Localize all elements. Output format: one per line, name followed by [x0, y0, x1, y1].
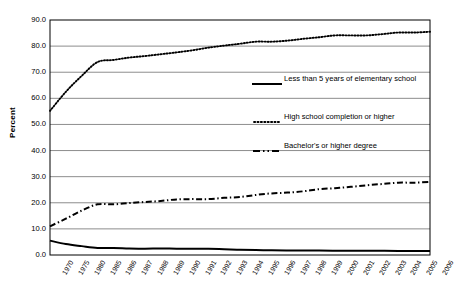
legend-item-less-than-5-years: Less than 5 years of elementary school: [252, 74, 416, 85]
x-axis-tick-label: 1996: [282, 259, 296, 276]
legend-swatch-solid-icon: [252, 75, 282, 85]
x-axis-tick-label: 1986: [124, 259, 138, 276]
legend-swatch-dashdot-icon: [252, 142, 282, 152]
x-axis-tick-label: 1993: [235, 259, 249, 276]
legend-swatch-dotted-icon: [252, 113, 282, 123]
legend-label-high-school: High school completion or higher: [284, 112, 395, 122]
x-axis-tick-label: 2004: [409, 259, 423, 276]
x-axis-tick-label: 1997: [298, 259, 312, 276]
x-axis-tick-label: 2002: [377, 259, 391, 276]
x-axis-tick-label: 1989: [172, 259, 186, 276]
x-axis-tick-label: 2001: [362, 259, 376, 276]
x-axis-tick-label: 1987: [140, 259, 154, 276]
x-axis-tick-label: 1975: [77, 259, 91, 276]
x-axis-tick-label: 1980: [92, 259, 106, 276]
legend-item-bachelors: Bachelor's or higher degree: [252, 141, 377, 152]
x-axis-tick-label: 1991: [203, 259, 217, 276]
legend-item-high-school: High school completion or higher: [252, 112, 395, 123]
x-axis-tick-label: 1995: [267, 259, 281, 276]
x-axis-tick-label: 1999: [330, 259, 344, 276]
x-axis-tick-label: 1994: [251, 259, 265, 276]
x-axis-tick-label: 1970: [61, 259, 75, 276]
x-axis-tick-label: 2006: [441, 259, 455, 276]
x-axis-tick-label: 1992: [219, 259, 233, 276]
x-axis-tick-label: 2000: [346, 259, 360, 276]
x-axis-tick-label: 2005: [425, 259, 439, 276]
x-axis-tick-label: 1988: [156, 259, 170, 276]
x-axis-tick-label: 2003: [393, 259, 407, 276]
legend-label-less-than-5-years: Less than 5 years of elementary school: [284, 74, 416, 84]
x-axis-tick-label: 1985: [108, 259, 122, 276]
x-axis-tick-label: 1998: [314, 259, 328, 276]
x-axis-tick-label: 1990: [187, 259, 201, 276]
legend-label-bachelors: Bachelor's or higher degree: [284, 141, 377, 151]
